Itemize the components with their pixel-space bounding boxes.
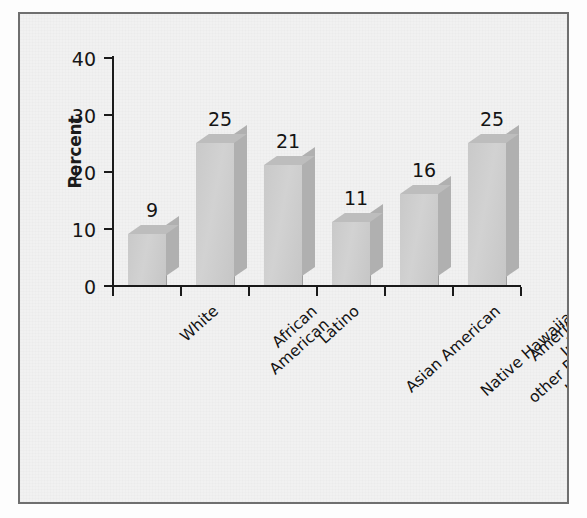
x-tick-mark-0 (112, 287, 114, 296)
x-tick-mark-1 (180, 287, 182, 296)
bar-african-american[interactable] (196, 143, 234, 286)
y-tick-label-30: 30 (56, 107, 96, 126)
bar-value-label-african-american: 25 (190, 110, 250, 129)
bar-asian-american[interactable] (332, 222, 370, 285)
x-tick-mark-6 (520, 287, 522, 296)
y-tick-label-40: 40 (56, 50, 96, 69)
bar-front-face (264, 165, 303, 285)
x-axis-label-white: White (177, 302, 223, 346)
x-tick-mark-5 (452, 287, 454, 296)
x-tick-mark-2 (248, 287, 250, 296)
figure-border: Percent 0 10 20 30 40 (18, 12, 569, 504)
bar-value-label-asian-american: 11 (326, 189, 386, 208)
x-tick-mark-4 (384, 287, 386, 296)
bar-front-face (196, 143, 235, 286)
y-tick-label-10: 10 (56, 221, 96, 240)
bar-front-face (400, 194, 439, 285)
bar-white[interactable] (128, 234, 166, 285)
bar-american-indian-alaska-native[interactable] (468, 143, 506, 286)
bar-side-face (302, 147, 315, 276)
bar-front-face (128, 234, 167, 285)
bar-front-face (468, 143, 507, 286)
bar-front-face (332, 222, 371, 285)
bar-latino[interactable] (264, 165, 302, 285)
bar-value-label-american-indian-alaska-native: 25 (462, 110, 522, 129)
y-tick-label-0: 0 (56, 278, 96, 297)
figure-frame: Percent 0 10 20 30 40 (0, 0, 587, 518)
bar-side-face (234, 124, 247, 276)
bar-chart-plot-area: Percent 0 10 20 30 40 (20, 14, 569, 504)
bar-value-label-native-hawaiian-pacific-islander: 16 (394, 161, 454, 180)
bar-value-label-white: 9 (122, 201, 182, 220)
x-tick-mark-3 (316, 287, 318, 296)
y-tick-label-20: 20 (56, 164, 96, 183)
bar-native-hawaiian-pacific-islander[interactable] (400, 194, 438, 285)
y-axis-line (112, 56, 114, 286)
bar-value-label-latino: 21 (258, 132, 318, 151)
bar-side-face (506, 124, 519, 276)
